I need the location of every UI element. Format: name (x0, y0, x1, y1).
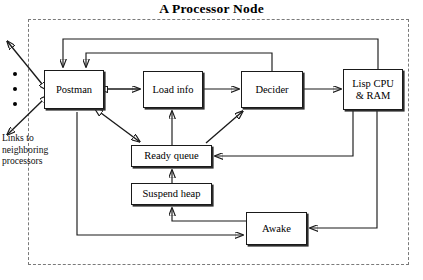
node-lisp-cpu-ram-label: Lisp CPU & RAM (352, 78, 394, 102)
processor-node-boundary (28, 19, 409, 265)
node-postman[interactable]: Postman (44, 70, 104, 109)
node-suspend-heap[interactable]: Suspend heap (131, 183, 212, 205)
node-suspend-heap-label: Suspend heap (142, 188, 200, 200)
links-caption-line-2: neighboring (2, 144, 74, 156)
node-decider[interactable]: Decider (241, 71, 303, 108)
node-lisp-cpu-ram-line-1: Lisp CPU (352, 78, 394, 89)
node-lisp-cpu-ram-line-2: & RAM (356, 90, 391, 101)
node-lisp-cpu-ram[interactable]: Lisp CPU & RAM (343, 69, 403, 110)
node-ready-queue[interactable]: Ready queue (131, 145, 212, 167)
node-load-info-label: Load info (152, 84, 193, 96)
node-load-info[interactable]: Load info (143, 71, 203, 108)
diagram-canvas: A Processor Node Links to neighboring pr… (0, 0, 423, 280)
node-ready-queue-label: Ready queue (144, 150, 199, 162)
node-awake-label: Awake (262, 223, 291, 235)
page-title: A Processor Node (0, 1, 423, 17)
links-caption-line-3: processors (2, 155, 74, 167)
links-caption-line-1: Links to (2, 132, 74, 144)
node-postman-label: Postman (56, 84, 92, 96)
vertical-ellipsis-icon (11, 72, 19, 106)
links-to-neighboring-processors-label: Links to neighboring processors (2, 132, 74, 167)
node-decider-label: Decider (255, 84, 288, 96)
node-awake[interactable]: Awake (246, 212, 307, 245)
